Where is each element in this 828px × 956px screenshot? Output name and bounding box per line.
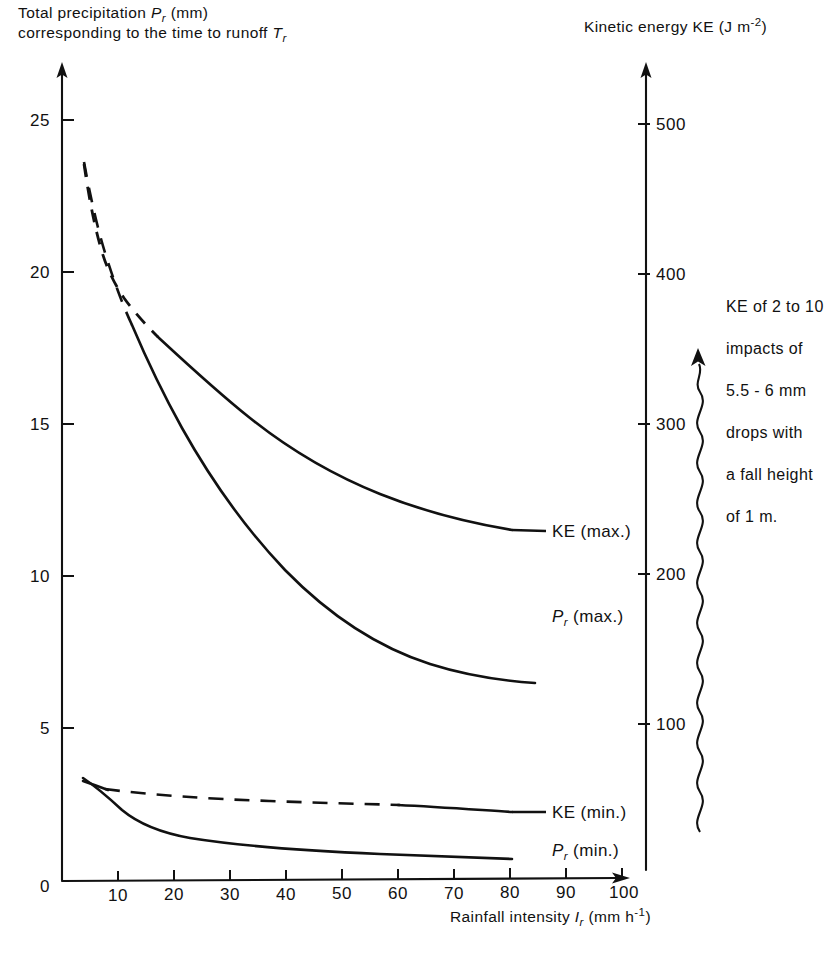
- x-tick-label-90: 90: [556, 883, 576, 902]
- right-axis-title-suffix: ): [761, 18, 767, 35]
- left-tick-label-5: 5: [40, 719, 50, 738]
- curve-label-ke-min: KE (min.): [552, 803, 626, 822]
- curve-pr-min-solid: [83, 778, 512, 859]
- right-tick-label-400: 400: [656, 265, 686, 284]
- bottom-axis-title: Rainfall intensity Ir (mm h-1): [450, 906, 651, 928]
- curve-ke-min-dashed: [105, 789, 400, 805]
- bottom-axis: [62, 868, 630, 884]
- curve-label-pr-max-symbol: P: [552, 607, 564, 626]
- left-axis-title-suffix: (mm): [166, 4, 208, 21]
- left-axis-title-line2-text: corresponding to the time to runoff: [18, 24, 273, 41]
- right-tick-label-300: 300: [656, 415, 686, 434]
- annotation-line-3: 5.5 - 6 mm: [726, 382, 806, 399]
- curve-label-pr-max-suffix: (max.): [568, 607, 624, 626]
- left-tick-label-20: 20: [30, 263, 50, 282]
- left-tick-label-0: 0: [40, 877, 50, 896]
- curve-label-pr-min-suffix: (min.): [568, 841, 619, 860]
- x-tick-label-40: 40: [276, 885, 296, 904]
- x-tick-label-50: 50: [332, 884, 352, 903]
- x-tick-label-100: 100: [609, 883, 639, 902]
- annotation-line-2: impacts of: [726, 340, 803, 357]
- right-axis-title: Kinetic energy KE (J m-2): [584, 16, 767, 35]
- right-tick-label-200: 200: [656, 565, 686, 584]
- left-tick-label-15: 15: [30, 415, 50, 434]
- curve-label-pr-min-symbol: P: [552, 841, 564, 860]
- annotation-line-6: of 1 m.: [726, 508, 778, 525]
- x-tick-label-20: 20: [164, 885, 184, 904]
- x-tick-label-70: 70: [444, 884, 464, 903]
- x-tick-label-60: 60: [388, 884, 408, 903]
- curve-ke-min-solid: [398, 805, 512, 812]
- annotation-line-1: KE of 2 to 10: [726, 298, 824, 315]
- wavy-brace-line: [697, 364, 703, 832]
- annotation-line-5: a fall height: [726, 466, 813, 483]
- bottom-axis-title-suffix: ): [645, 908, 651, 925]
- left-axis-title-line1: Total precipitation Pr (mm): [18, 4, 208, 24]
- x-tick-label-30: 30: [220, 885, 240, 904]
- left-axis: [57, 62, 75, 880]
- x-tick-label-10: 10: [108, 886, 128, 905]
- curve-label-pr-min: Pr (min.): [552, 841, 619, 862]
- left-axis-title-text: Total precipitation: [18, 4, 151, 21]
- left-axis-title-line2-symbol-sub: r: [282, 32, 287, 44]
- curve-label-pr-max: Pr (max.): [552, 607, 624, 628]
- left-axis-title-symbol: P: [151, 4, 162, 21]
- right-tick-label-500: 500: [656, 115, 686, 134]
- x-tick-label-80: 80: [500, 883, 520, 902]
- figure-container: Total precipitation Pr (mm) correspondin…: [0, 0, 828, 956]
- bottom-axis-title-mid: (mm h: [584, 908, 635, 925]
- right-axis-title-sup: -2: [750, 16, 761, 28]
- left-axis-title-line2: corresponding to the time to runoff Tr: [18, 24, 287, 44]
- wavy-brace-annotation: [691, 348, 706, 832]
- right-axis: [638, 62, 652, 870]
- right-axis-title-text: Kinetic energy KE (J m: [584, 18, 750, 35]
- annotation-line-4: drops with: [726, 424, 803, 441]
- curve-ke-max-solid: [158, 337, 512, 530]
- right-tick-label-100: 100: [656, 715, 686, 734]
- bottom-axis-title-sup: -1: [634, 906, 645, 918]
- brace-arrowhead: [691, 348, 706, 366]
- curve-ke-max-dashed: [84, 164, 158, 337]
- precipitation-kinetic-energy-chart: Total precipitation Pr (mm) correspondin…: [0, 0, 828, 956]
- curve-pr-max-solid: [132, 325, 535, 683]
- bottom-axis-title-text: Rainfall intensity: [450, 908, 575, 925]
- curve-label-ke-max: KE (max.): [552, 522, 631, 541]
- ke-max-leader: [512, 530, 546, 531]
- left-tick-label-25: 25: [30, 111, 50, 130]
- left-tick-label-10: 10: [30, 567, 50, 586]
